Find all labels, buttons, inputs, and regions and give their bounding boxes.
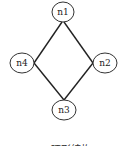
- edge-n2-n3: [64, 63, 93, 100]
- diagram-canvas: n1 n2 n3 n4 (c) 环形结构: [0, 0, 125, 146]
- edges: [34, 22, 93, 100]
- node-label: n1: [57, 7, 69, 17]
- node-n2: n2: [93, 53, 117, 73]
- edge-n4-n1: [34, 22, 62, 63]
- node-label: n4: [16, 58, 28, 68]
- node-label: n2: [99, 58, 111, 68]
- node-n1: n1: [52, 2, 74, 22]
- ring-topology-graph: n1 n2 n3 n4: [0, 0, 125, 146]
- edge-n3-n4: [34, 63, 64, 100]
- node-label: n3: [58, 105, 70, 115]
- figure-caption: (c) 环形结构: [0, 141, 125, 146]
- node-n4: n4: [10, 53, 34, 73]
- edge-n1-n2: [64, 22, 93, 63]
- node-n3: n3: [52, 100, 76, 120]
